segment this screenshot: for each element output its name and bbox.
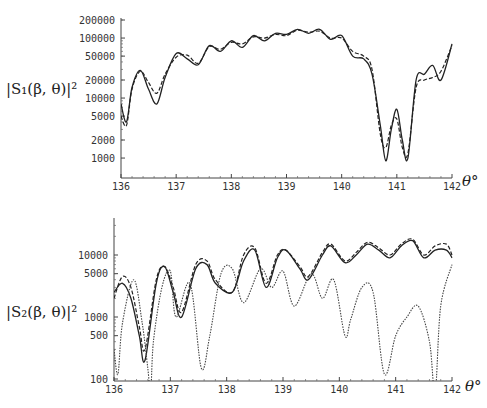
x-tick-label: 142 [443, 181, 461, 192]
x-tick-label: 139 [274, 384, 292, 395]
y-tick-label: 1000 [84, 312, 108, 323]
y-tick-label: 5000 [84, 268, 108, 279]
bottom-plot-s2: 1361371381391401411421000050001000500100 [78, 218, 461, 395]
chart-canvas: 1361371381391401411422000001000005000020… [0, 0, 487, 408]
bottom-y-axis-label: |S₂(β, θ)|² [6, 303, 77, 321]
y-tick-label: 10000 [85, 93, 115, 104]
y-tick-label: 200000 [79, 15, 115, 26]
series-solid-line [114, 240, 452, 362]
y-tick-label: 50000 [85, 51, 115, 62]
y-tick-label: 10000 [78, 250, 108, 261]
y-tick-label: 5000 [91, 111, 115, 122]
series-dashed-line [114, 239, 452, 351]
x-tick-label: 141 [387, 384, 405, 395]
y-tick-label: 100000 [79, 33, 115, 44]
y-tick-label: 100 [90, 374, 108, 385]
x-tick-label: 140 [333, 181, 351, 192]
x-tick-label: 137 [167, 181, 185, 192]
y-tick-label: 1000 [91, 153, 115, 164]
y-tick-label: 500 [90, 330, 108, 341]
bottom-x-axis-label: θ° [465, 377, 482, 395]
x-tick-label: 137 [161, 384, 179, 395]
series-solid-line [121, 29, 452, 161]
y-tick-label: 20000 [85, 75, 115, 86]
x-tick-label: 141 [388, 181, 406, 192]
top-plot-s1: 1361371381391401411422000001000005000020… [79, 15, 461, 193]
x-tick-label: 138 [218, 384, 236, 395]
top-x-axis-label: θ° [462, 172, 479, 190]
y-tick-label: 2000 [91, 135, 115, 146]
series-dotted-line [114, 265, 452, 394]
x-tick-label: 138 [222, 181, 240, 192]
x-tick-label: 136 [112, 181, 130, 192]
x-tick-label: 136 [105, 384, 123, 395]
x-tick-label: 140 [330, 384, 348, 395]
x-tick-label: 142 [443, 384, 461, 395]
top-y-axis-label: |S₁(β, θ)|² [6, 80, 77, 98]
x-tick-label: 139 [277, 181, 295, 192]
